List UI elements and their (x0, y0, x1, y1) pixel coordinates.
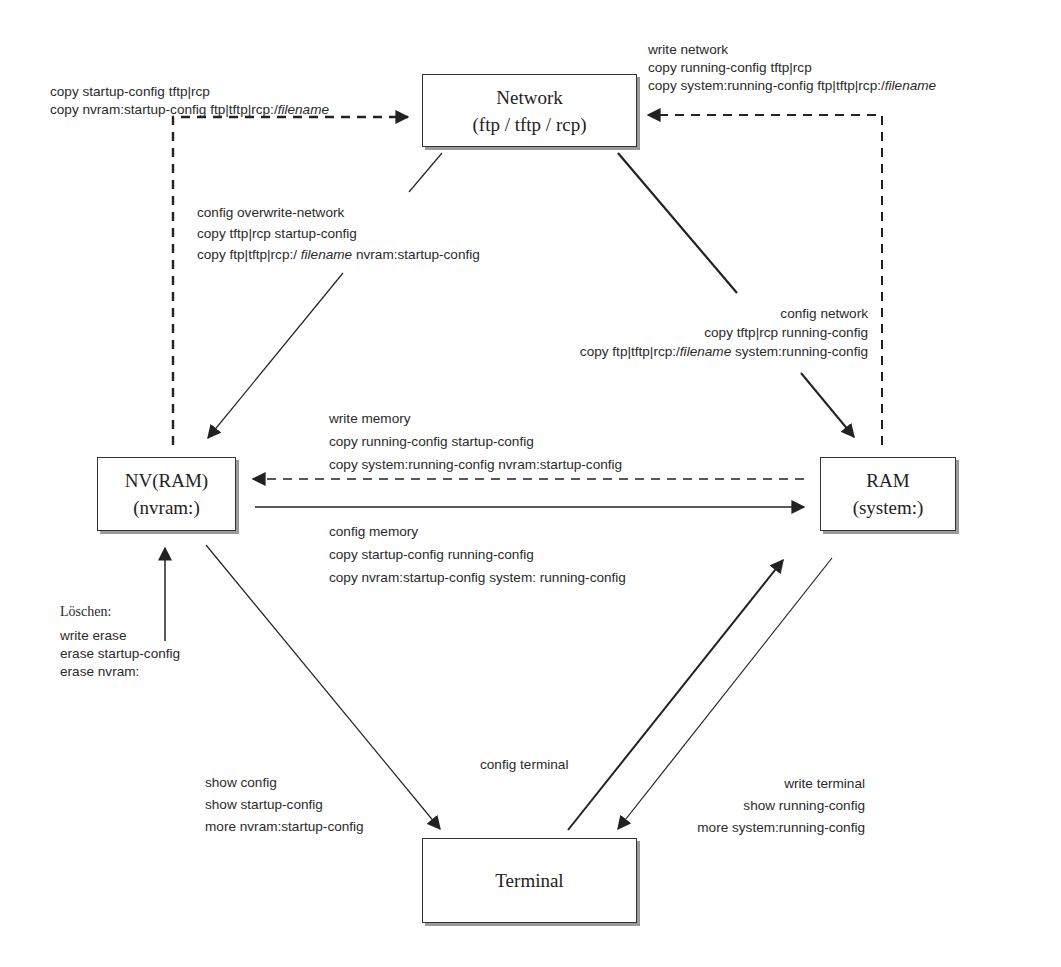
config-flow-diagram: Network (ftp / tftp / rcp) NV(RAM) (nvra… (0, 0, 1061, 967)
ram-node-title: RAM (866, 467, 909, 494)
erase-heading: Löschen: (60, 603, 180, 621)
label-nvram-to-terminal: show config show startup-config more nvr… (205, 772, 364, 838)
ram-node: RAM (system:) (820, 457, 956, 531)
arrow-network-to-ram (618, 153, 854, 437)
label-nvram-to-network: copy startup-config tftp|rcp copy nvram:… (50, 83, 329, 119)
label-nvram-to-ram: config memory copy startup-config runnin… (329, 520, 626, 589)
arrow-network-to-nvram (208, 153, 442, 438)
arrow-nvram-to-network (173, 117, 408, 445)
network-node-title: Network (496, 84, 562, 111)
network-node-subtitle: (ftp / tftp / rcp) (473, 111, 587, 138)
label-terminal-to-ram: config terminal (480, 756, 568, 774)
network-node: Network (ftp / tftp / rcp) (422, 74, 637, 147)
nvram-node-subtitle: (nvram:) (133, 494, 199, 521)
label-ram-to-terminal: write terminal show running-config more … (697, 773, 865, 839)
nvram-node-title: NV(RAM) (125, 467, 208, 494)
label-ram-to-network: write network copy running-config tftp|r… (648, 41, 936, 95)
arrow-ram-to-network (648, 115, 882, 445)
label-network-to-ram: config network copy tftp|rcp running-con… (580, 304, 868, 361)
label-erase: Löschen: write erase erase startup-confi… (60, 603, 180, 681)
ram-node-subtitle: (system:) (853, 494, 924, 521)
label-ram-to-nvram: write memory copy running-config startup… (329, 407, 622, 476)
nvram-node: NV(RAM) (nvram:) (97, 457, 236, 531)
terminal-node: Terminal (422, 838, 637, 923)
terminal-node-title: Terminal (495, 867, 563, 894)
label-network-to-nvram: config overwrite-network copy tftp|rcp s… (197, 202, 480, 265)
